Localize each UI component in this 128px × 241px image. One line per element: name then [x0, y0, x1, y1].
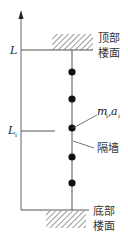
bottom-floor-label-line1: 底部: [93, 204, 115, 218]
mass-dot: [68, 179, 75, 186]
top-floor-label-line2: 楼面: [98, 46, 120, 60]
mass-dot: [68, 124, 75, 131]
mass-dot: [68, 153, 75, 160]
svg-text:i: i: [15, 131, 17, 138]
mass-dot: [68, 68, 75, 75]
mid-height-label: L i: [7, 124, 17, 138]
mass-leader-line: [73, 115, 97, 128]
top-floor-label-line1: 顶部: [98, 31, 120, 45]
svg-text:a: a: [111, 105, 118, 118]
height-axis: [19, 10, 24, 210]
svg-text:i: i: [118, 112, 120, 119]
arrow-up-icon: [19, 10, 24, 19]
wall-leader-line: [73, 141, 94, 148]
top-floor-hatch: [52, 34, 93, 50]
wall-mass-diagram: L L i m i , a i 顶部 楼面 隔墙 底部 楼面: [0, 0, 128, 241]
bottom-floor-hatch: [46, 211, 86, 228]
wall-label: 隔墙: [97, 141, 119, 155]
mass-label: m i , a i: [97, 105, 120, 119]
top-height-label: L: [9, 44, 17, 57]
bottom-floor-label-line2: 楼面: [93, 219, 115, 233]
mass-dot: [68, 95, 75, 102]
